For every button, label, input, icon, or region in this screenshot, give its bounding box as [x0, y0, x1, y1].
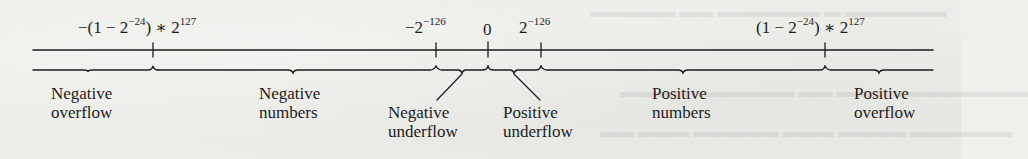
- marker-label-pos-min: 2−126: [519, 18, 550, 38]
- region-label-negative-overflow: Negative overflow: [51, 84, 112, 122]
- leader-negative-underflow: [437, 74, 462, 100]
- brace-positive-numbers: [541, 66, 825, 73]
- marker-label-neg-min: −2−126: [405, 18, 446, 38]
- region-label-line1: Negative: [51, 84, 112, 103]
- leader-positive-underflow: [514, 74, 540, 100]
- region-label-line2: underflow: [503, 122, 573, 141]
- region-label-negative-underflow: Negative underflow: [388, 103, 458, 141]
- brace-negative-numbers: [158, 66, 436, 73]
- region-label-line1: Positive: [854, 84, 915, 103]
- marker-label-neg-max: −(1 − 2−24) ∗ 2127: [78, 18, 196, 38]
- brace-negative-overflow: [33, 66, 158, 72]
- region-label-line2: underflow: [388, 122, 458, 141]
- region-label-line2: overflow: [854, 103, 915, 122]
- brace-positive-underflow: [488, 66, 541, 73]
- region-label-line1: Negative: [388, 103, 458, 122]
- region-label-line1: Positive: [652, 84, 711, 103]
- brace-positive-overflow: [825, 66, 933, 73]
- region-label-line1: Negative: [259, 84, 320, 103]
- region-label-line2: overflow: [51, 103, 112, 122]
- region-label-positive-underflow: Positive underflow: [503, 103, 573, 141]
- region-label-negative-numbers: Negative numbers: [259, 84, 320, 122]
- region-label-line2: numbers: [652, 103, 711, 122]
- brace-negative-underflow: [436, 66, 488, 73]
- marker-label-zero: 0: [483, 20, 492, 40]
- marker-label-pos-max: (1 − 2−24) ∗ 2127: [756, 18, 865, 38]
- region-label-positive-numbers: Positive numbers: [652, 84, 711, 122]
- region-label-positive-overflow: Positive overflow: [854, 84, 915, 122]
- region-label-line2: numbers: [259, 103, 320, 122]
- region-label-line1: Positive: [503, 103, 573, 122]
